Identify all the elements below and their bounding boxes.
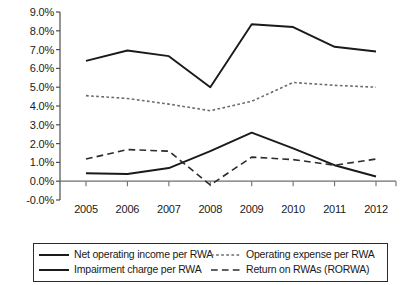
legend-line-swatch (39, 250, 69, 260)
x-axis: 20052006200720082009201020112012 (60, 203, 396, 219)
plot-svg (60, 12, 396, 200)
legend-item[interactable]: Operating expense per RWA (211, 249, 389, 260)
legend-line-swatch (211, 250, 241, 260)
y-tick-label: 4.0% (30, 101, 54, 112)
x-tick-label: 2006 (116, 203, 140, 216)
legend-item-label: Return on RWAs (RORWA) (246, 264, 369, 275)
legend-item-label: Impairment charge per RWA (74, 264, 201, 275)
chart-legend: Net operating income per RWAOperating ex… (33, 243, 388, 282)
series-line-1 (86, 24, 376, 87)
y-tick-label: 1.0% (30, 157, 54, 168)
legend-item-label: Net operating income per RWA (74, 249, 213, 260)
y-tick-label: 7.0% (30, 44, 54, 55)
legend-line-swatch (211, 265, 241, 275)
legend-line-swatch (39, 265, 69, 275)
series-line-3 (86, 133, 376, 177)
y-tick-label: 6.0% (30, 63, 54, 74)
series-line-2 (86, 83, 376, 111)
x-tick-label: 2005 (74, 203, 98, 216)
x-tick-label: 2011 (323, 203, 346, 216)
legend-item[interactable]: Impairment charge per RWA (39, 264, 211, 275)
y-tick-label: 5.0% (30, 82, 54, 93)
x-tick-label: 2010 (281, 203, 305, 216)
x-tick-label: 2009 (240, 203, 264, 216)
y-tick-label: 2.0% (30, 138, 54, 149)
series-line-4 (86, 150, 376, 185)
legend-item[interactable]: Return on RWAs (RORWA) (211, 264, 389, 275)
legend-item[interactable]: Net operating income per RWA (39, 249, 211, 260)
x-tick-label: 2007 (157, 203, 181, 216)
x-tick-label: 2012 (364, 203, 388, 216)
x-tick-label: 2008 (198, 203, 222, 216)
y-tick-label: 8.0% (30, 25, 54, 36)
y-axis: 9.0%8.0%7.0%6.0%5.0%4.0%3.0%2.0%1.0%0.0%… (0, 12, 54, 200)
y-tick-label: 9.0% (30, 7, 54, 18)
y-tick-label: 0.0% (30, 176, 54, 187)
y-tick-label: 3.0% (30, 119, 54, 130)
y-tick-label: -0.0% (26, 195, 54, 206)
legend-item-label: Operating expense per RWA (246, 249, 375, 260)
plot-area (60, 12, 396, 200)
chart-container: 9.0%8.0%7.0%6.0%5.0%4.0%3.0%2.0%1.0%0.0%… (0, 0, 404, 285)
